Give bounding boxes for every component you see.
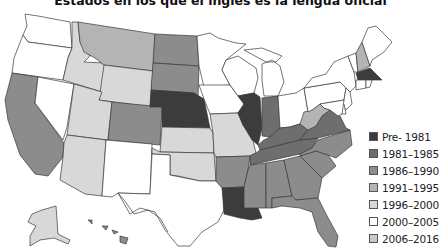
legend-label: Pre- 1981 (382, 131, 431, 143)
legend-item: 2006–2016 (369, 230, 439, 247)
state-KS (160, 127, 214, 153)
state-FL (272, 196, 338, 247)
legend-label: 1991–1995 (382, 182, 439, 194)
legend-item: Pre- 1981 (369, 128, 439, 145)
state-AK (28, 206, 70, 246)
state-NM (102, 140, 152, 197)
legend-item: 1996–2000 (369, 196, 439, 213)
state-RI (366, 80, 372, 88)
legend-label: 1986–1990 (382, 165, 439, 177)
state-ND (153, 34, 199, 66)
state-WY (99, 65, 153, 107)
map-legend: Pre- 1981 1981–1985 1986–1990 1991–1995 … (369, 128, 439, 247)
legend-label: 2006–2016 (382, 233, 439, 245)
state-CT (356, 80, 366, 90)
legend-swatch (369, 234, 378, 243)
legend-label: 1996–2000 (382, 199, 439, 211)
legend-swatch (369, 166, 378, 175)
state-CO (108, 102, 162, 145)
legend-swatch (369, 217, 378, 226)
legend-item: 2000–2005 (369, 213, 439, 230)
legend-item: 1991–1995 (369, 179, 439, 196)
legend-swatch (369, 183, 378, 192)
legend-swatch (369, 149, 378, 158)
legend-item: 1986–1990 (369, 162, 439, 179)
legend-swatch (369, 200, 378, 209)
state-HI (88, 220, 128, 244)
legend-label: 1981–1985 (382, 148, 439, 160)
legend-item: 1981–1985 (369, 145, 439, 162)
legend-swatch (369, 132, 378, 141)
state-AZ (60, 135, 106, 196)
legend-label: 2000–2005 (382, 216, 439, 228)
